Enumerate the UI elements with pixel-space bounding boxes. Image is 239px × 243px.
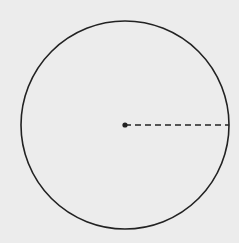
center-point [122,122,127,127]
diagram-canvas [0,0,239,243]
